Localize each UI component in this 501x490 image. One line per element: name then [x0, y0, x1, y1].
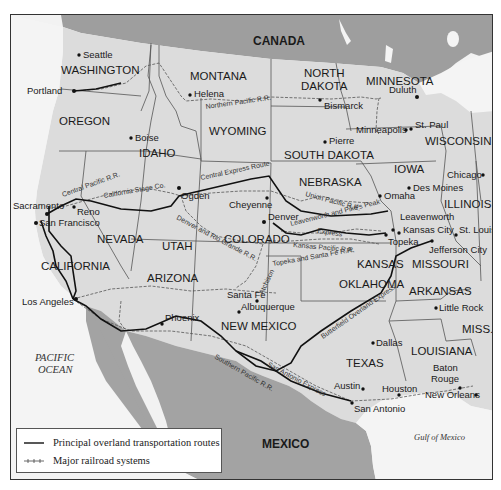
label-pacific-2: OCEAN: [38, 364, 73, 375]
label-ogden: Ogden: [181, 190, 210, 201]
legend-item-overland: Principal overland transportation routes: [23, 437, 220, 448]
map-legend: Principal overland transportation routes…: [16, 428, 222, 473]
label-utah: UTAH: [162, 240, 192, 252]
map-canvas: CANADA MEXICO PACIFIC OCEAN Gulf of Mexi…: [11, 15, 493, 480]
label-reno: Reno: [77, 206, 100, 217]
label-dallas: Dallas: [376, 337, 403, 348]
legend-label-overland: Principal overland transportation routes: [53, 437, 220, 448]
label-duluth: Duluth: [389, 84, 416, 95]
label-missouri: MISSOURI: [412, 258, 469, 270]
label-albuquerque: Albuquerque: [241, 301, 295, 312]
label-canada: CANADA: [253, 34, 305, 48]
label-arizona: ARIZONA: [147, 272, 198, 284]
label-minneapolis: Minneapolis: [356, 124, 407, 135]
label-california: CALIFORNIA: [41, 260, 110, 272]
label-sacramento: Sacramento: [13, 200, 64, 211]
label-nevada: NEVADA: [97, 233, 144, 245]
label-north-dakota-1: NORTH: [304, 67, 345, 79]
label-pacific-1: PACIFIC: [34, 352, 75, 363]
label-gulf-of-mexico: Gulf of Mexico: [414, 432, 465, 442]
label-washington: WASHINGTON: [61, 64, 140, 76]
label-bismarck: Bismarck: [324, 100, 363, 111]
label-baton-rouge-2: Rouge: [431, 373, 459, 384]
label-idaho: IDAHO: [139, 147, 175, 159]
label-austin: Austin: [334, 380, 360, 391]
label-omaha: Omaha: [384, 190, 416, 201]
label-san-antonio: San Antonio: [354, 403, 405, 414]
label-montana: MONTANA: [190, 70, 247, 82]
label-little-rock: Little Rock: [439, 302, 484, 313]
legend-label-railroad: Major railroad systems: [53, 455, 150, 466]
label-baton-rouge-1: Baton: [433, 362, 458, 373]
label-boise: Boise: [135, 132, 159, 143]
label-seattle: Seattle: [83, 49, 113, 60]
label-san-francisco: San Francisco: [39, 217, 100, 228]
label-des-moines: Des Moines: [413, 182, 463, 193]
label-cheyenne: Cheyenne: [229, 199, 272, 210]
label-topeka: Topeka: [388, 236, 419, 247]
label-illinois: ILLINOIS: [444, 198, 492, 210]
label-jefferson-city: Jefferson City: [429, 244, 487, 255]
lake: [447, 31, 459, 47]
label-helena: Helena: [194, 88, 225, 99]
label-phoenix: Phoenix: [165, 312, 200, 323]
label-pierre: Pierre: [329, 135, 354, 146]
map-frame: CANADA MEXICO PACIFIC OCEAN Gulf of Mexi…: [10, 14, 493, 480]
legend-item-railroad: Major railroad systems: [23, 455, 150, 466]
label-st-paul: St. Paul: [415, 119, 448, 130]
solid-line-icon: [23, 440, 45, 446]
label-south-dakota: SOUTH DAKOTA: [284, 149, 374, 161]
label-new-mexico: NEW MEXICO: [221, 320, 296, 332]
label-portland: Portland: [27, 85, 62, 96]
label-leavenworth: Leavenworth: [400, 211, 454, 222]
label-texas: TEXAS: [346, 357, 384, 369]
label-los-angeles: Los Angeles: [22, 296, 74, 307]
label-st-louis: St. Louis: [459, 224, 493, 235]
label-louisiana: LOUISIANA: [411, 345, 473, 357]
label-new-orleans: New Orleans: [425, 389, 480, 400]
label-nebraska: NEBRASKA: [299, 176, 362, 188]
label-oregon: OREGON: [59, 115, 110, 127]
label-kansas: KANSAS: [357, 258, 404, 270]
label-houston: Houston: [382, 383, 417, 394]
label-north-dakota-2: DAKOTA: [301, 80, 348, 92]
label-kansas-city: Kansas City: [403, 224, 454, 235]
label-mississippi: MISS.: [462, 323, 493, 335]
label-mexico: MEXICO: [262, 437, 309, 451]
label-arkansas: ARKANSAS: [409, 285, 472, 297]
label-iowa: IOWA: [394, 163, 425, 175]
label-wyoming: WYOMING: [209, 125, 267, 137]
label-wisconsin: WISCONSIN: [425, 135, 491, 147]
railroad-tick-line-icon: [23, 458, 45, 464]
label-chicago: Chicago: [447, 169, 482, 180]
